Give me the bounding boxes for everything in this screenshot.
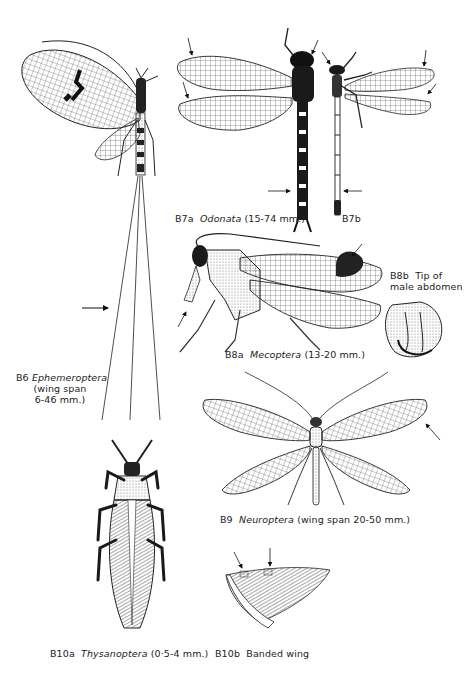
lacewing-figure [203, 372, 440, 505]
lacewing-abdomen [313, 447, 319, 505]
dragonfly-figure [177, 28, 318, 232]
lacewing-hindwing-right [322, 446, 410, 494]
size-range: (13-20 mm.) [304, 349, 365, 360]
lacewing-thorax [310, 427, 322, 447]
label-b7b: B7b [342, 213, 361, 224]
caption-line: Banded wing [246, 648, 309, 659]
caption-line: male abdomen [390, 281, 463, 292]
figure-code: B6 [16, 372, 29, 383]
insect-orders-plate: B7a Odonata (15-74 mm.) B7b B8b Tip of m… [0, 0, 464, 677]
dragonfly-thorax [292, 66, 314, 102]
label-b8b: B8b Tip of male abdomen [390, 270, 463, 292]
figure-code: B10b [215, 648, 240, 659]
order-name: Neuroptera [239, 514, 294, 525]
scorpionfly-rostrum [184, 266, 200, 302]
thrips-head [124, 462, 140, 476]
mayfly-abdomen [136, 113, 145, 175]
illustration-canvas [0, 0, 464, 677]
order-name: Ephemeroptera [32, 372, 107, 383]
thrips-figure [98, 440, 164, 628]
dragonfly-forewing-left [177, 56, 292, 90]
size-range: (0·5-4 mm.) [151, 648, 209, 659]
abdomen-tip-figure [386, 302, 442, 357]
damselfly-head [329, 65, 345, 75]
size-note: 6-46 mm.) [35, 394, 86, 405]
size-note: (wing span [33, 383, 86, 394]
caption-line: Tip of [415, 270, 442, 281]
mayfly-thorax [136, 78, 146, 113]
label-b6: B6 Ephemeroptera (wing span 6-46 mm.) [16, 372, 104, 405]
mayfly-figure [22, 41, 160, 420]
thrips-antennae [112, 440, 152, 464]
banded-wing-figure [226, 548, 330, 628]
figure-code: B8a [225, 349, 244, 360]
lacewing-forewing-right [322, 399, 427, 440]
damselfly-figure [322, 50, 436, 215]
size-range: (wing span 20-50 mm.) [297, 514, 410, 525]
scorpionfly-antenna [196, 234, 320, 248]
label-b7a: B7a Odonata (15-74 mm.) [175, 213, 305, 224]
label-b8a: B8a Mecoptera (13-20 mm.) [225, 349, 365, 360]
dragonfly-hindwing-left [179, 96, 292, 130]
lacewing-head [310, 417, 322, 427]
scorpionfly-figure [178, 234, 382, 352]
size-range: (15-74 mm.) [244, 213, 305, 224]
figure-code: B7a [175, 213, 194, 224]
order-name: Thysanoptera [81, 648, 148, 659]
figure-code: B7b [342, 213, 361, 224]
figure-code: B8b [390, 270, 409, 281]
damselfly-abdomen [334, 97, 341, 215]
label-b10b: B10b Banded wing [215, 648, 309, 659]
order-name: Mecoptera [250, 349, 301, 360]
figure-code: B10a [50, 648, 75, 659]
label-b10a: B10a Thysanoptera (0·5-4 mm.) [50, 648, 208, 659]
mayfly-cerci [102, 176, 160, 420]
order-name: Odonata [200, 213, 241, 224]
damselfly-forewing-right [345, 68, 434, 92]
lacewing-hindwing-left [222, 446, 310, 494]
figure-code: B9 [220, 514, 233, 525]
lacewing-forewing-left [203, 399, 310, 440]
label-b9: B9 Neuroptera (wing span 20-50 mm.) [220, 514, 410, 525]
